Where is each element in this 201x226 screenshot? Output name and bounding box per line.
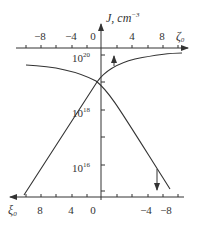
zeta-tick-label: −8 (34, 30, 46, 42)
j-tick-1e20: 1020 (72, 51, 91, 64)
j-tick-1e16: 1016 (72, 161, 91, 174)
xi-axis-label: ξ0 (8, 203, 17, 218)
xi-tick-label: 8 (37, 204, 43, 216)
figure-diagram: J, cm−3 1020 1018 1016 −8 −4 0 4 8 ζ0 8 … (0, 0, 201, 226)
xi-tick-label: 4 (68, 204, 74, 216)
diagram-canvas: J, cm−3 1020 1018 1016 −8 −4 0 4 8 ζ0 8 … (0, 0, 201, 226)
xi-tick-label: −4 (140, 204, 152, 216)
xi-tick-label: −8 (160, 204, 172, 216)
zeta-tick-label: 0 (90, 30, 96, 42)
j-tick-1e18: 1018 (72, 106, 91, 119)
xi-tick-label: 0 (90, 204, 96, 216)
zeta-tick-label: 4 (129, 30, 135, 42)
curve-rising (24, 53, 182, 195)
zeta-tick-label: 8 (159, 30, 165, 42)
j-axis-label: J, cm−3 (106, 11, 140, 25)
zeta-tick-label: −4 (65, 30, 77, 42)
curve-falling (26, 65, 170, 189)
zeta-axis-label: ζ0 (176, 29, 185, 44)
